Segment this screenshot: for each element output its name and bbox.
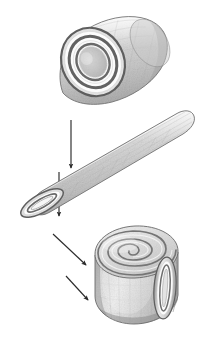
figure-root: Tube flattening and spiral rolling seque… [0, 0, 224, 344]
illustration-canvas [0, 0, 224, 344]
stage-3-rolled-spiral-cylinder [95, 226, 178, 325]
